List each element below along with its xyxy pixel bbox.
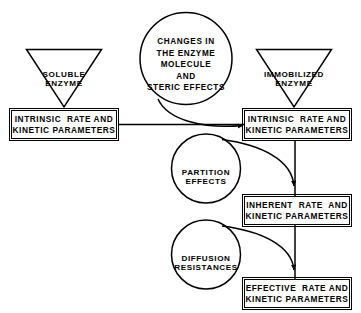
inherent-line1: INHERENT RATE AND bbox=[246, 200, 348, 211]
intrinsic-rate-box-right: INTRINSIC RATE AND KINETIC PARAMETERS bbox=[244, 110, 350, 139]
diffusion-resistances-circle bbox=[172, 220, 241, 289]
intrinsic-left-line1: INTRINSIC RATE AND bbox=[15, 114, 114, 125]
connector-changes-to-intrinsic-arrow bbox=[158, 99, 243, 126]
effective-line2: KINETIC PARAMETERS bbox=[246, 294, 349, 305]
immobilized-enzyme-triangle bbox=[257, 50, 332, 108]
flow-diagram: SOLUBLE ENZYME IMMOBILIZED ENZYME CHANGE… bbox=[0, 0, 361, 313]
effective-line1: EFFECTIVE RATE AND bbox=[246, 283, 349, 294]
changes-circle bbox=[140, 13, 232, 105]
intrinsic-right-line1: INTRINSIC RATE AND bbox=[248, 114, 347, 125]
inherent-rate-box: INHERENT RATE AND KINETIC PARAMETERS bbox=[244, 196, 350, 225]
intrinsic-right-line2: KINETIC PARAMETERS bbox=[246, 125, 349, 136]
intrinsic-left-line2: KINETIC PARAMETERS bbox=[13, 125, 116, 136]
effective-rate-box: EFFECTIVE RATE AND KINETIC PARAMETERS bbox=[244, 279, 350, 308]
soluble-enzyme-triangle bbox=[27, 50, 102, 108]
inherent-line2: KINETIC PARAMETERS bbox=[246, 211, 349, 222]
partition-effects-circle bbox=[172, 134, 241, 203]
diagram-canvas bbox=[0, 0, 361, 313]
intrinsic-rate-box-left: INTRINSIC RATE AND KINETIC PARAMETERS bbox=[11, 110, 117, 139]
